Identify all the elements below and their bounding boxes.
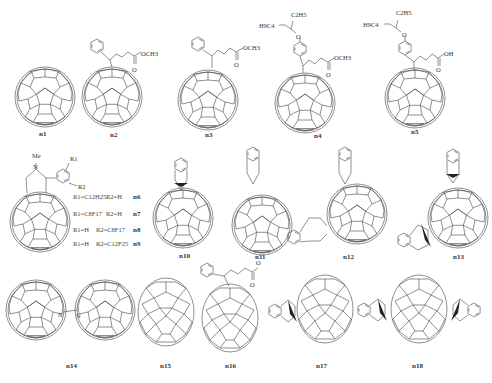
label-n13: n13 — [453, 253, 464, 261]
bridge-wedge-icon — [288, 300, 297, 322]
methyl-label: Me — [32, 152, 41, 159]
label-n1: n1 — [39, 130, 47, 138]
label-n4: n4 — [314, 132, 322, 140]
ester-o-label: O — [256, 259, 261, 266]
r1-definition: R1=C8F17 — [73, 210, 103, 217]
benzo-ring-icon — [398, 233, 410, 247]
phenoxy-ring-icon — [294, 42, 306, 56]
r2-definition: R2=H — [106, 193, 122, 200]
phenyl-ring-icon — [201, 263, 213, 277]
phenyl-ring-icon — [192, 37, 204, 51]
compound-n12: , — [288, 147, 387, 244]
ether-o-label: O — [296, 33, 301, 40]
nitrogen-label: N — [58, 311, 63, 318]
c60-cage-icon — [82, 67, 142, 127]
c60-cage-icon — [178, 70, 238, 130]
carbonyl-o-label: O — [436, 66, 441, 73]
c2h5-label: C2H5 — [396, 9, 412, 16]
rgroup-row: R1=H R2=C12F25 n9 — [73, 240, 141, 248]
compound-n14: N N — [6, 280, 135, 340]
label-n7: n7 — [133, 210, 141, 218]
label-n14: n14 — [66, 362, 77, 370]
label-n8: n8 — [133, 226, 141, 234]
compound-n17 — [269, 275, 353, 343]
c60-cage-icon — [153, 188, 213, 248]
compound-n3: OCH3 O — [178, 37, 260, 130]
compound-n16: O O — [201, 259, 261, 352]
benzo-ring-icon — [358, 303, 370, 317]
benzo-ring-icon — [175, 158, 187, 172]
c70-cage-icon — [391, 275, 447, 343]
och3-label: OCH3 — [243, 44, 260, 51]
r2-definition: R2=C12F25 — [96, 240, 128, 247]
c70-cage-icon — [138, 278, 194, 346]
compound-n13 — [398, 149, 488, 250]
compound-n10 — [153, 158, 213, 248]
c2h5-label: C2H5 — [291, 11, 307, 18]
label-n12: n12 — [343, 253, 354, 261]
bridge-wedge-icon — [378, 299, 387, 321]
c60-cage-icon — [10, 192, 70, 252]
carbonyl-o-label: O — [326, 71, 331, 78]
benzo-ring-icon — [468, 303, 480, 317]
bridge-wedge-icon — [174, 183, 188, 187]
c60-cage-icon — [232, 195, 292, 255]
label-n17: n17 — [316, 362, 327, 370]
compound-n15 — [138, 278, 194, 346]
compound-n5: O C2H5 H9C4 OH O — [363, 9, 454, 128]
label-n10: n10 — [179, 252, 190, 260]
c70-cage-icon — [202, 284, 258, 352]
carbonyl-o-label: O — [132, 66, 137, 73]
compound-n4: O C2H5 H9C4 OCH3 O — [259, 11, 351, 133]
benzo-ring-icon — [447, 149, 459, 163]
label-n15: n15 — [160, 362, 171, 370]
r2-definition: R2=C8F17 — [96, 226, 126, 233]
r1-definition: R1=H — [73, 226, 89, 233]
rgroup-row: R1=C8F17 R2=H n7 — [73, 210, 141, 218]
label-n5: n5 — [411, 128, 419, 136]
label-n16: n16 — [225, 362, 236, 370]
c70-cage-icon — [297, 275, 353, 343]
carbonyl-o-label: O — [250, 281, 255, 288]
aryl-ring-icon — [57, 169, 69, 183]
c60-cage-icon — [385, 68, 445, 128]
fullerene-structures-diagram: OCH3 O OCH3 O O C2H5 H9C4 OCH3 O O C2H5 … — [0, 0, 492, 383]
c60-cage-icon — [327, 184, 387, 244]
r1-definition: R1=C12H25 — [73, 193, 106, 200]
nitrogen-label: N — [76, 312, 81, 319]
carbonyl-o-label: O — [234, 61, 239, 68]
benzo-ring-icon — [269, 304, 281, 318]
compound-n18 — [358, 275, 480, 343]
bridge-wedge-icon — [451, 299, 460, 321]
phenyl-ring-icon — [91, 39, 103, 53]
compound-n1 — [15, 67, 75, 127]
och3-label: OCH3 — [141, 50, 158, 57]
label-n18: n18 — [412, 362, 423, 370]
phenoxy-ring-icon — [399, 41, 411, 55]
rgroup-row: R1=H R2=C8F17 n8 — [73, 226, 141, 234]
c60-cage-icon — [6, 280, 66, 340]
r2-definition: R2=H — [106, 210, 122, 217]
r1-label: R1 — [70, 155, 78, 162]
label-n6: n6 — [133, 193, 141, 201]
c60-cage-icon — [15, 67, 75, 127]
compound-n11 — [232, 147, 292, 255]
c60-cage-icon — [75, 280, 135, 340]
ether-o-label: O — [402, 31, 407, 38]
label-n9: n9 — [133, 240, 141, 248]
och3-label: OCH3 — [334, 54, 351, 61]
benzo-ring-icon — [247, 147, 259, 161]
rgroup-table: R1=C12H25 R2=H n6 R1=C8F17 R2=H n7 R1=H … — [73, 193, 141, 248]
c60-cage-icon — [275, 73, 335, 133]
c60-cage-icon — [428, 188, 488, 248]
r2-label: R2 — [78, 183, 86, 190]
rgroup-row: R1=C12H25 R2=H n6 — [73, 193, 141, 201]
h9c4-label: H9C4 — [259, 22, 275, 29]
compound-n2: OCH3 O — [82, 39, 158, 127]
benzo-ring-icon — [339, 147, 351, 161]
nitrogen-label: N — [33, 163, 38, 170]
h9c4-label: H9C4 — [363, 21, 379, 28]
oh-label: OH — [444, 50, 454, 57]
label-n3: n3 — [205, 131, 213, 139]
r1-definition: R1=H — [73, 240, 89, 247]
